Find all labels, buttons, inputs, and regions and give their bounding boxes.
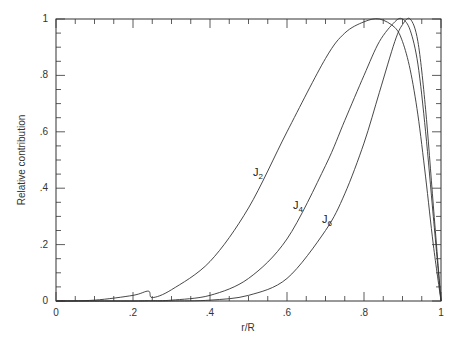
x-tick-label: .8 [360,307,369,318]
x-tick-label: .2 [129,307,138,318]
curve-label-j4: J4 [293,199,304,214]
curve-j6 [56,18,441,301]
y-tick-label: 1 [42,13,48,24]
chart: 0.2.4.6.810.2.4.6.81 r/R Relative contri… [0,0,459,348]
y-tick-label: 0 [42,295,48,306]
x-axis-title: r/R [241,322,254,333]
y-tick-label: .6 [40,126,49,137]
x-tick-label: .6 [283,307,292,318]
y-axis-title: Relative contribution [16,115,27,206]
tick-labels: 0.2.4.6.810.2.4.6.81 [40,13,445,318]
axes-frame [56,19,441,301]
x-tick-label: 1 [438,307,444,318]
curves [56,18,441,301]
y-tick-label: .4 [40,182,49,193]
curve-j2 [56,19,441,301]
curve-label-j6: J6 [322,213,333,228]
y-tick-label: .8 [40,69,49,80]
x-tick-label: 0 [53,307,59,318]
x-tick-label: .4 [206,307,215,318]
curve-label-j2: J2 [253,166,264,181]
curve-j4 [56,18,441,301]
axis-ticks [56,19,441,301]
y-tick-label: .2 [40,239,49,250]
